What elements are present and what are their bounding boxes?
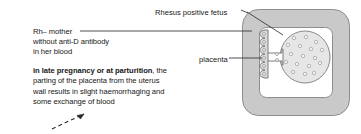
caption-line-4: some exchange of blood: [33, 97, 233, 107]
caption-line-1: in late pregnancy or at parturition, the: [33, 66, 233, 76]
diagram-canvas: Rh– mother without anti-D antibody in he…: [0, 0, 361, 134]
label-rhesus-positive-fetus: Rhesus positive fetus: [155, 8, 227, 17]
label-mother-line-3: in her blood: [33, 47, 72, 57]
label-placenta: placenta: [199, 55, 228, 64]
blood-exchange-arrow: [52, 114, 84, 129]
caption-line-3: wall results in slight haemorrhaging and: [33, 87, 233, 97]
label-mother-line-2: without anti-D antibody: [33, 37, 109, 47]
label-mother-line-1: Rh– mother: [33, 27, 72, 37]
caption-paragraph: in late pregnancy or at parturition, the…: [33, 66, 233, 107]
caption-bold-phrase: in late pregnancy or at parturition: [33, 66, 152, 75]
caption-line-1-rest: , the: [152, 66, 167, 75]
caption-line-2: parting of the placenta from the uterus: [33, 76, 233, 86]
fetus-leader-tick: [241, 10, 248, 13]
